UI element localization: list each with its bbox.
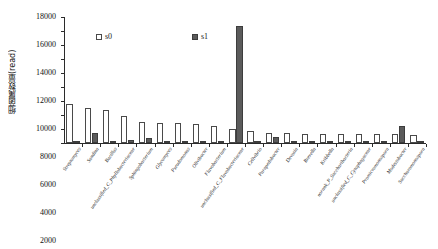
bar-s0 (139, 122, 145, 143)
bar-s1 (200, 141, 206, 143)
bar-s0 (157, 123, 163, 143)
bar-s0 (193, 124, 199, 143)
bar-s0 (302, 134, 308, 143)
bar-group (410, 17, 423, 143)
y-tick-mark: 0 (61, 143, 64, 144)
bar-group (139, 17, 152, 143)
bar-s0 (103, 110, 109, 143)
bar-s1 (345, 141, 351, 143)
y-tick-mark: 10000 (61, 73, 64, 74)
bar-s0 (410, 135, 416, 143)
bar-s0 (229, 129, 235, 143)
x-axis-label: Bacillus (103, 146, 118, 163)
bar-s1 (309, 141, 315, 143)
bar-s0 (356, 134, 362, 143)
y-axis-line (64, 17, 65, 144)
bar-s0 (284, 133, 290, 143)
x-axis-label: Streptomyces (61, 146, 82, 172)
bar-s0 (211, 126, 217, 144)
bar-group (211, 17, 224, 143)
bar-s1 (327, 141, 333, 143)
y-tick-mark: 8000 (61, 87, 64, 88)
bar-s1 (110, 141, 116, 143)
y-tick-label: 14000 (36, 69, 56, 77)
bar-group (338, 17, 351, 143)
legend-entry-s0: s0 (96, 32, 112, 41)
bar-s0 (66, 104, 72, 143)
bar-s0 (320, 134, 326, 143)
x-axis-label: Kribbella (319, 146, 335, 166)
bar-group (374, 17, 387, 143)
x-axis-label: Brevella (302, 146, 317, 164)
plot-area: 0200040006000800010000120001400016000180… (64, 17, 426, 144)
bar-s1 (254, 141, 260, 143)
bar-group (320, 17, 333, 143)
bar-group (229, 17, 242, 143)
y-tick-label: 16000 (36, 41, 56, 49)
bar-s1 (164, 141, 170, 143)
bar-group (157, 17, 170, 143)
legend-label: s0 (105, 32, 112, 41)
bar-s1 (182, 141, 188, 143)
y-tick-label: 10000 (36, 125, 56, 133)
bar-s1 (381, 141, 387, 143)
y-tick-label: 18000 (36, 13, 56, 21)
legend-label: s1 (201, 32, 208, 41)
bar-group (121, 17, 134, 143)
bar-s1 (236, 26, 242, 143)
bar-s1 (291, 141, 297, 143)
x-axis-label: Glycomyces (153, 146, 172, 170)
bar-group (66, 17, 79, 143)
x-axis-label: Cellvibrio (246, 146, 263, 167)
bar-s0 (247, 131, 253, 143)
x-axis-label: Devosia (284, 146, 299, 163)
legend-swatch-icon (192, 34, 198, 40)
y-tick-mark: 16000 (61, 31, 64, 32)
bar-s0 (266, 133, 272, 144)
bar-s1 (417, 141, 423, 143)
bar-group (392, 17, 405, 143)
bar-s1 (399, 126, 405, 143)
bar-s1 (218, 141, 224, 143)
bar-group (284, 17, 297, 143)
y-tick-label: 8000 (40, 153, 56, 161)
y-tick-label: 6000 (40, 181, 56, 189)
bar-group (356, 17, 369, 143)
bar-s0 (338, 134, 344, 143)
x-axis-labels: StreptomycesSandinaBacillusunclassified_… (64, 146, 438, 249)
y-tick-mark: 14000 (61, 45, 64, 46)
bar-group (266, 17, 279, 143)
y-tick-mark: 4000 (61, 115, 64, 116)
y-tick-mark: 18000 (61, 17, 64, 18)
x-axis-label: Sandina (85, 146, 100, 163)
bar-s1 (146, 138, 152, 143)
y-tick-label: 4000 (40, 209, 56, 217)
bar-s0 (85, 108, 91, 143)
y-axis-title: 细菌属数量(read) (8, 28, 24, 136)
bar-s1 (92, 133, 98, 143)
bar-s0 (121, 116, 127, 143)
y-tick-mark: 2000 (61, 129, 64, 130)
bar-s1 (273, 137, 279, 143)
bar-s0 (374, 134, 380, 143)
bar-s1 (73, 141, 79, 143)
y-tick-label: 2000 (40, 237, 56, 245)
x-axis-label: Olivibacter (190, 146, 208, 169)
legend-entry-s1: s1 (192, 32, 208, 41)
bacteria-genus-read-count-bar-chart: 细菌属数量(read) 0200040006000800010000120001… (0, 0, 438, 249)
bar-s1 (128, 140, 134, 143)
legend-swatch-icon (96, 34, 102, 40)
bar-s0 (175, 123, 181, 143)
bar-s0 (392, 134, 398, 143)
y-tick-mark: 12000 (61, 59, 64, 60)
y-tick-mark: 6000 (61, 101, 64, 102)
y-tick-label: 12000 (36, 97, 56, 105)
bar-group (175, 17, 188, 143)
bar-group (302, 17, 315, 143)
bar-group (247, 17, 260, 143)
bar-s1 (363, 141, 369, 143)
